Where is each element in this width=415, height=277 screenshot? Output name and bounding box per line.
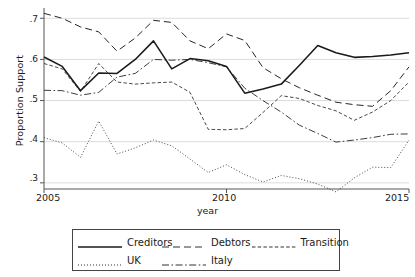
axis-lines: [44, 8, 409, 189]
legend-item-italy[interactable]: Italy: [161, 255, 255, 266]
chart-figure: Proportion Support .7 .6 .5 .4 .3 2005 2…: [0, 0, 415, 277]
legend-line-swatch: [161, 237, 207, 247]
gridlines: [44, 18, 409, 183]
data-series-group: [44, 13, 409, 192]
legend-line-swatch: [251, 237, 297, 247]
legend-item-label: Debtors: [211, 237, 251, 248]
legend-row: CreditorsDebtorsTransition: [77, 233, 335, 251]
axis-ticks: [40, 18, 409, 193]
legend-item-label: Italy: [211, 255, 233, 266]
legend-item-creditors[interactable]: Creditors: [77, 237, 161, 248]
legend-item-label: UK: [127, 255, 141, 266]
legend-item-debtors[interactable]: Debtors: [161, 237, 251, 248]
chart-legend: CreditorsDebtorsTransition UKItaly: [72, 229, 340, 271]
legend-line-swatch: [77, 237, 123, 247]
legend-item-uk[interactable]: UK: [77, 255, 161, 266]
legend-item-transition[interactable]: Transition: [251, 237, 341, 248]
legend-line-swatch: [77, 255, 123, 265]
series-line-uk: [44, 121, 409, 192]
legend-item-label: Transition: [301, 237, 349, 248]
legend-row: UKItaly: [77, 251, 335, 269]
legend-line-swatch: [161, 255, 207, 265]
plot-area: [0, 0, 415, 210]
